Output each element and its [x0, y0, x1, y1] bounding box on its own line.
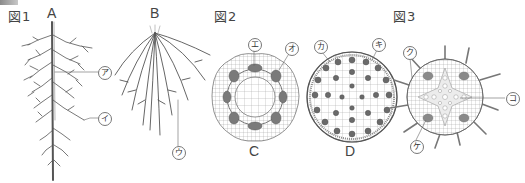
callout-a: ア: [98, 66, 112, 80]
callout-ka: カ: [314, 40, 328, 54]
taproot-diagram: [22, 22, 99, 180]
callout-e: エ: [248, 38, 262, 52]
fibrous-root-diagram: [115, 25, 210, 146]
root-cross-section-fig3: [390, 46, 505, 148]
callout-u: ウ: [172, 146, 186, 160]
callout-ki: キ: [372, 38, 386, 52]
callout-ko: コ: [506, 92, 520, 106]
cross-section-c: [212, 50, 299, 141]
cross-section-d: [307, 50, 397, 142]
callout-ke: ケ: [410, 140, 424, 154]
callout-o: オ: [285, 42, 299, 56]
diagram-canvas: [0, 0, 525, 183]
callout-i: イ: [98, 112, 112, 126]
callout-ku: ク: [403, 46, 417, 60]
